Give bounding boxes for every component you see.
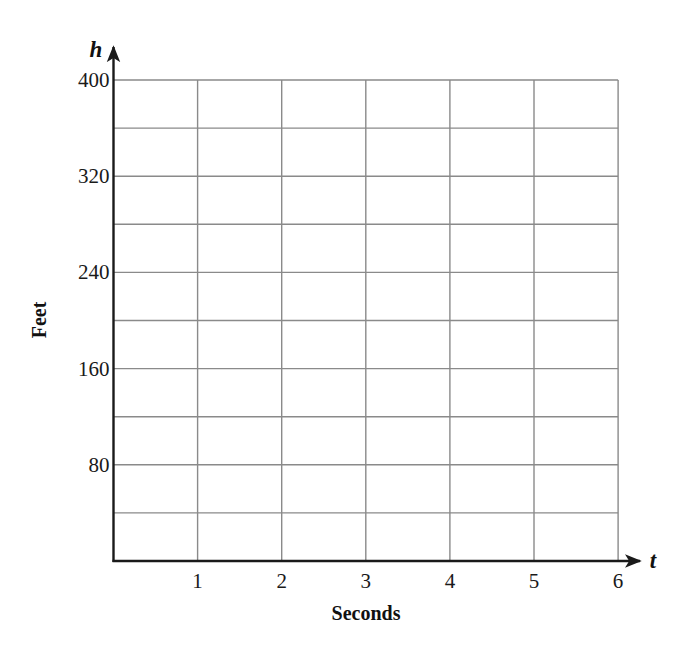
y-tick-label: 80 [89, 453, 110, 477]
x-tick-label: 5 [529, 569, 540, 593]
y-tick-labels: 80160240320400 [78, 68, 110, 477]
blank-graph: 123456 80160240320400 h t Seconds Feet [0, 0, 685, 646]
y-tick-label: 320 [78, 164, 110, 188]
x-tick-labels: 123456 [192, 569, 623, 593]
x-tick-label: 1 [192, 569, 203, 593]
y-tick-label: 160 [78, 357, 110, 381]
y-variable-label: h [90, 37, 103, 62]
x-tick-label: 6 [613, 569, 624, 593]
y-tick-label: 400 [78, 68, 110, 92]
y-axis-title: Feet [28, 301, 50, 338]
x-tick-label: 3 [361, 569, 372, 593]
x-tick-label: 2 [276, 569, 287, 593]
x-axis-title: Seconds [332, 602, 401, 624]
x-tick-label: 4 [445, 569, 456, 593]
y-tick-label: 240 [78, 260, 110, 284]
x-variable-label: t [650, 548, 657, 573]
